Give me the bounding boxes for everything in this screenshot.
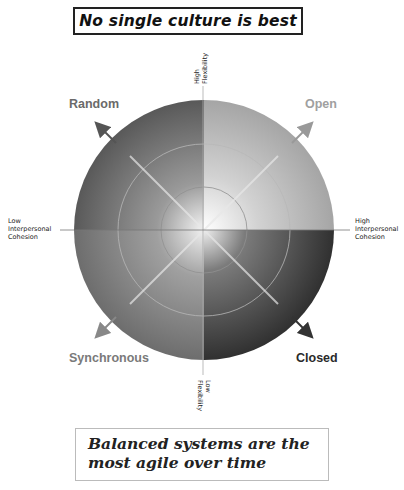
label-synchronous: Synchronous — [69, 351, 149, 365]
label-closed: Closed — [296, 351, 338, 365]
label-open: Open — [305, 97, 337, 111]
arrow-open — [292, 127, 308, 143]
conclusion-line-2: most agile over time — [88, 453, 328, 472]
label-random: Random — [69, 97, 119, 111]
arrow-random — [100, 127, 116, 143]
axis-label-bottom: Low Flexibility — [196, 380, 212, 411]
axis-label-right: High Interpersonal Cohesion — [355, 217, 398, 241]
axis-label-top: High Flexibility — [193, 53, 209, 84]
conclusion-box: Balanced systems are the most agile over… — [75, 428, 329, 481]
axis-label-left: Low Interpersonal Cohesion — [8, 217, 51, 241]
arrow-synchronous — [100, 317, 116, 333]
conclusion-line-1: Balanced systems are the — [88, 434, 328, 453]
arrow-closed — [292, 317, 308, 333]
